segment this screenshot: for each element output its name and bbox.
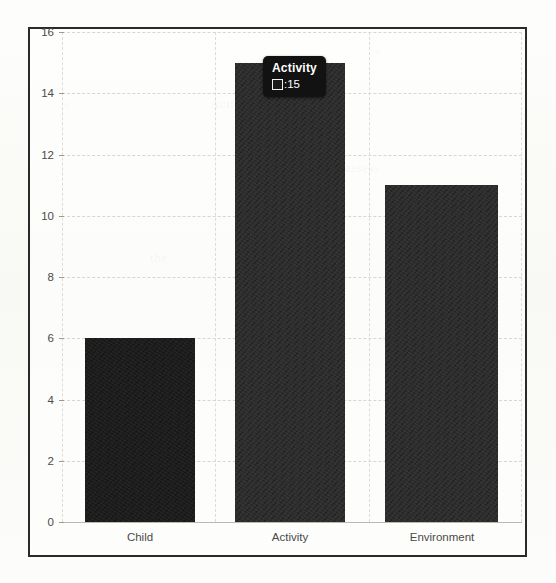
vgridline-1 [215,32,216,522]
bar-child[interactable] [85,338,195,522]
ytick-mark [59,277,64,278]
tooltip: Activity : 15 [263,56,326,97]
x-axis-label-activity: Activity [272,531,308,543]
tooltip-value-row: : 15 [272,78,317,91]
tooltip-value: 15 [287,78,300,91]
vgridline-2 [369,32,370,522]
ytick-mark [59,461,64,462]
y-axis-label-12: 12 [24,149,54,161]
y-axis-label-8: 8 [24,271,54,283]
plot-area: 16 14 12 10 8 6 4 2 0 Activity : 15 Chil… [62,32,522,522]
legend-swatch-icon [272,79,283,90]
ytick-mark [59,155,64,156]
y-axis-label-2: 2 [24,455,54,467]
ytick-mark [59,216,64,217]
y-axis-label-0: 0 [24,516,54,528]
ytick-mark [59,400,64,401]
bar-environment[interactable] [385,185,498,522]
ytick-mark [59,522,64,523]
gridline-16 [62,32,522,33]
ytick-mark [59,338,64,339]
chart-frame: 16 14 12 10 8 6 4 2 0 Activity : 15 Chil… [28,27,527,557]
y-axis-label-4: 4 [24,394,54,406]
y-axis-label-16: 16 [24,26,54,38]
y-axis-label-6: 6 [24,332,54,344]
y-axis-label-10: 10 [24,210,54,222]
tooltip-title: Activity [272,61,317,75]
x-axis-label-environment: Environment [410,531,475,543]
vgridline-right [521,32,522,522]
gridline-0-axis [62,522,522,523]
x-axis-label-child: Child [127,531,153,543]
bar-activity[interactable] [235,63,345,522]
ytick-mark [59,32,64,33]
y-axis-label-14: 14 [24,87,54,99]
ytick-mark [59,93,64,94]
